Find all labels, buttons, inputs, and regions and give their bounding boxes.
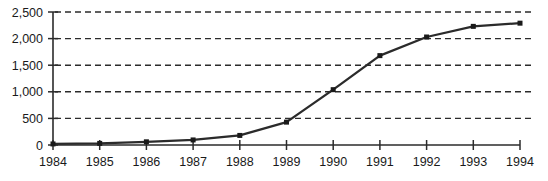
data-point-1988: [237, 133, 242, 138]
series-markers-group: [51, 21, 523, 147]
y-axis-tick-label: 0: [36, 139, 43, 153]
data-point-1991: [377, 53, 382, 58]
data-point-1990: [331, 87, 336, 92]
y-axis-tick-label: 1,500: [12, 59, 43, 73]
x-axis-tick-label: 1993: [459, 155, 487, 169]
y-axis-labels-group: 05001,0001,5002,0002,500: [12, 6, 43, 153]
line-chart: 05001,0001,5002,0002,500 198419851986198…: [0, 0, 548, 181]
data-point-1987: [191, 137, 196, 142]
data-point-1994: [518, 21, 523, 26]
x-axis-tick-label: 1989: [273, 155, 301, 169]
data-point-1992: [424, 35, 429, 40]
x-axis-tick-label: 1984: [39, 155, 67, 169]
x-axis-tick-label: 1986: [132, 155, 160, 169]
data-point-1984: [51, 141, 56, 146]
y-axis-tick-label: 2,000: [12, 32, 43, 46]
data-point-1985: [97, 141, 102, 146]
x-axis-tick-label: 1991: [366, 155, 394, 169]
y-axis-tick-label: 1,000: [12, 85, 43, 99]
data-point-1993: [471, 24, 476, 29]
series-line-path: [53, 23, 520, 144]
x-axis-labels-group: 1984198519861987198819891990199119921993…: [39, 155, 534, 169]
x-axis-tick-label: 1985: [86, 155, 114, 169]
x-axis-tick-label: 1987: [179, 155, 207, 169]
data-point-1989: [284, 120, 289, 125]
x-axis-tick-label: 1988: [226, 155, 254, 169]
y-axis-tick-label: 2,500: [12, 6, 43, 20]
y-axis-tick-label: 500: [22, 112, 43, 126]
x-axis-tick-label: 1992: [413, 155, 441, 169]
data-point-1986: [144, 139, 149, 144]
x-axis-tick-label: 1990: [319, 155, 347, 169]
chart-canvas: 05001,0001,5002,0002,500 198419851986198…: [0, 0, 548, 181]
x-axis-tick-label: 1994: [506, 155, 534, 169]
